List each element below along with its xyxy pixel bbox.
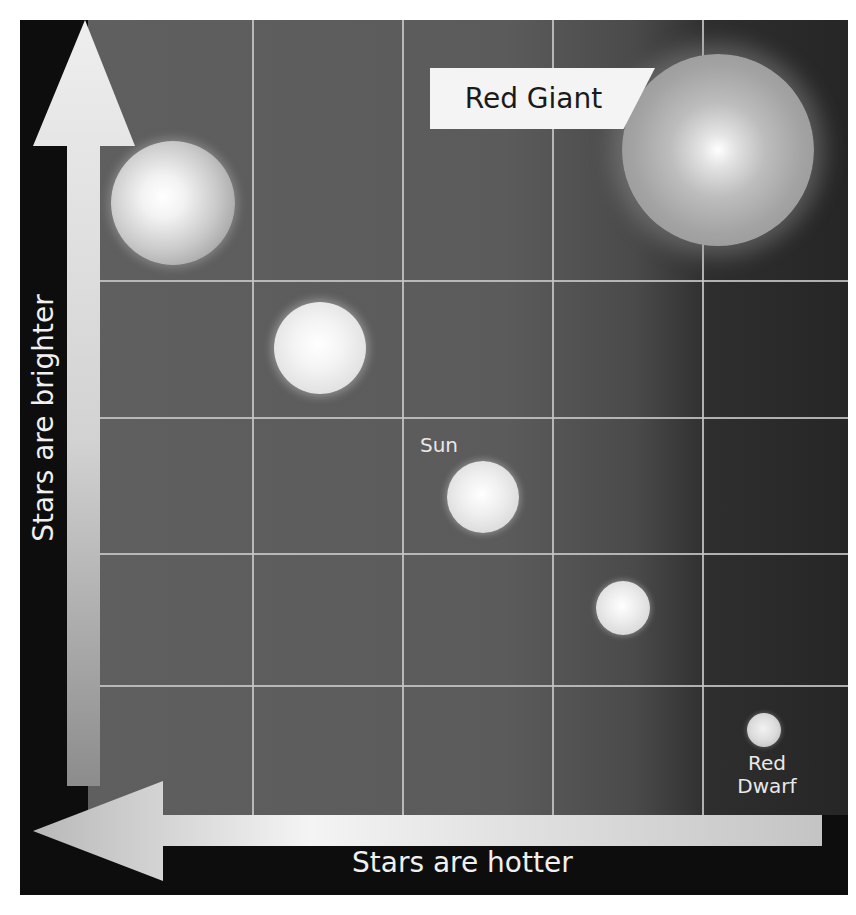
y-axis-label: Stars are brighter <box>27 294 60 541</box>
axis-arrows <box>0 0 856 915</box>
x-axis-label: Stars are hotter <box>352 846 573 879</box>
